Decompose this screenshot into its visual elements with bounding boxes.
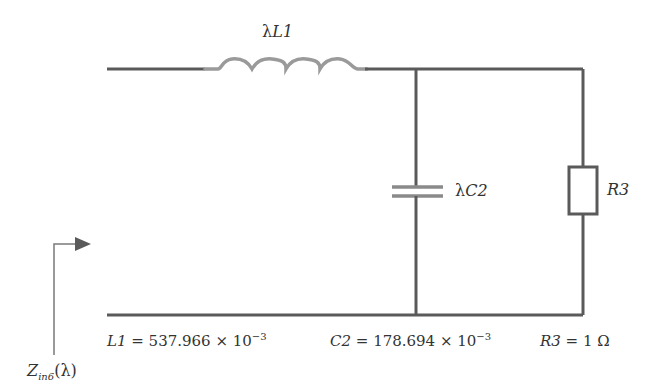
resistor-label: R3 xyxy=(607,182,629,198)
r3-value: = 1 Ω xyxy=(561,332,610,350)
inductor-label: λL1 xyxy=(262,24,293,40)
capacitor-label: λC2 xyxy=(455,183,488,199)
inductor-name: L1 xyxy=(272,22,293,41)
c2-name: C2 xyxy=(330,332,351,350)
impedance-argument: (λ) xyxy=(54,361,77,380)
r3-value-label: R3 = 1 Ω xyxy=(540,334,610,349)
input-arrow-line xyxy=(54,244,76,355)
resistor-r3-icon xyxy=(569,167,597,214)
c2-value-label: C2 = 178.694 × 10−3 xyxy=(330,334,491,349)
input-impedance-label: Zin6(λ) xyxy=(27,363,77,379)
l1-name: L1 xyxy=(107,332,127,350)
c2-value: = 178.694 × 10 xyxy=(351,332,476,350)
input-arrow-head-icon xyxy=(75,237,91,251)
capacitor-name: C2 xyxy=(465,181,487,200)
impedance-symbol: Z xyxy=(27,361,38,380)
l1-value-label: L1 = 537.966 × 10−3 xyxy=(107,334,267,349)
inductor-l1-icon xyxy=(205,59,367,69)
impedance-subscript: in6 xyxy=(38,371,54,382)
c2-exponent: −3 xyxy=(476,331,491,342)
l1-value: = 537.966 × 10 xyxy=(127,332,252,350)
r3-name: R3 xyxy=(540,332,561,350)
lambda-prefix: λ xyxy=(455,181,465,200)
resistor-name: R3 xyxy=(607,180,629,199)
l1-exponent: −3 xyxy=(252,331,267,342)
lambda-prefix: λ xyxy=(262,22,272,41)
